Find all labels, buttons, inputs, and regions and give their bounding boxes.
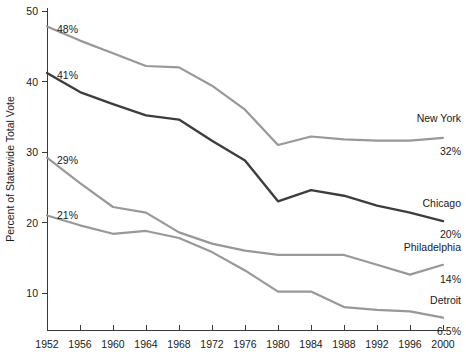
- series-name-label-detroit: Detroit: [430, 294, 461, 306]
- series-line-new-york: [47, 27, 443, 145]
- series-line-chicago: [47, 73, 443, 221]
- x-axis-tick-label: 1988: [332, 338, 356, 350]
- start-value-label-new-york: 48%: [57, 23, 78, 35]
- x-axis-tick-label: 1972: [200, 338, 224, 350]
- y-axis-tick-label: 20: [26, 217, 38, 229]
- y-axis-tick-label: 10: [26, 287, 38, 299]
- x-axis-tick-label: 1992: [365, 338, 389, 350]
- y-axis-tick-label: 30: [26, 146, 38, 158]
- series-name-label-new-york: New York: [417, 112, 462, 124]
- start-value-label-philadelphia: 29%: [57, 154, 78, 166]
- end-value-label-philadelphia: 14%: [440, 273, 461, 285]
- x-axis-tick-label: 1968: [167, 338, 191, 350]
- end-value-label-chicago: 20%: [440, 228, 461, 240]
- series-name-label-chicago: Chicago: [422, 197, 461, 209]
- x-axis-tick-label: 1952: [35, 338, 59, 350]
- x-axis-tick-label: 1976: [233, 338, 257, 350]
- x-axis-tick-label: 1956: [68, 338, 92, 350]
- y-axis-tick-label: 50: [26, 5, 38, 17]
- x-axis-tick-label: 2000: [431, 338, 455, 350]
- start-value-label-detroit: 21%: [57, 209, 78, 221]
- x-axis-tick-label: 1984: [299, 338, 323, 350]
- line-chart: 1020304050195219561960196419681972197619…: [0, 0, 466, 361]
- x-axis-tick-label: 1960: [101, 338, 125, 350]
- x-axis-tick-label: 1964: [134, 338, 158, 350]
- start-value-label-chicago: 41%: [57, 69, 78, 81]
- series-line-philadelphia: [47, 158, 443, 275]
- chart-container: 1020304050195219561960196419681972197619…: [0, 0, 466, 361]
- y-axis-title: Percent of Statewide Total Vote: [4, 96, 16, 242]
- x-axis-tick-label: 1980: [266, 338, 290, 350]
- y-axis-tick-label: 40: [26, 76, 38, 88]
- series-name-label-philadelphia: Philadelphia: [404, 241, 461, 253]
- x-axis-tick-label: 1996: [398, 338, 422, 350]
- end-value-label-new-york: 32%: [440, 145, 461, 157]
- end-value-label-detroit: 6.5%: [437, 325, 461, 337]
